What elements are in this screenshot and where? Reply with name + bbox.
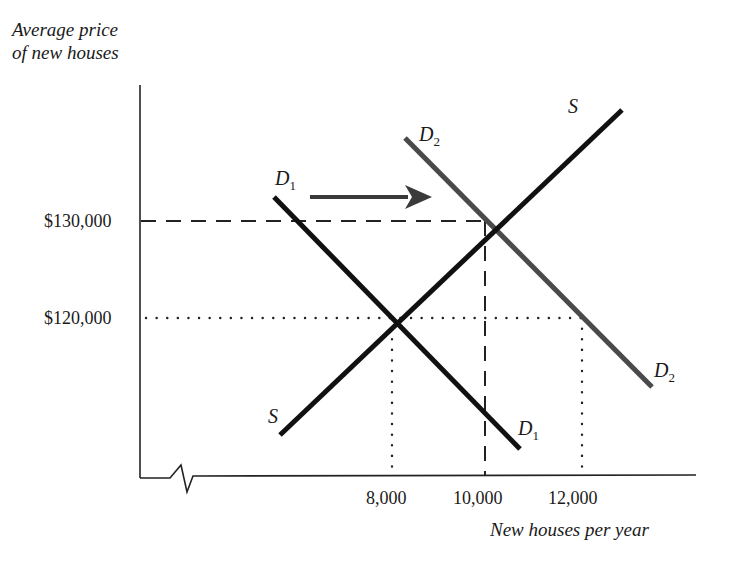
y-tick-120000: $120,000 xyxy=(44,308,112,328)
y-axis-title-line-1: Average price xyxy=(12,20,118,40)
label-d1-bottom: D1 xyxy=(518,418,539,446)
y-tick-130000: $130,000 xyxy=(44,211,112,231)
demand-shift-arrow-icon xyxy=(310,185,432,209)
x-tick-10000: 10,000 xyxy=(453,488,503,508)
y-axis-title-line-2: of new houses xyxy=(12,43,119,63)
chart-canvas xyxy=(0,0,729,564)
guide-lines xyxy=(141,221,582,475)
supply-curve-s xyxy=(280,110,622,435)
x-tick-8000: 8,000 xyxy=(366,488,407,508)
label-d2-bottom: D2 xyxy=(654,360,675,388)
label-d1-top: D1 xyxy=(275,168,296,196)
label-supply-bottom: S xyxy=(268,406,278,426)
demand-curve-d2 xyxy=(405,138,652,387)
label-supply-top: S xyxy=(568,96,578,116)
axes xyxy=(140,85,696,492)
x-tick-12000: 12,000 xyxy=(548,488,598,508)
label-d2-top: D2 xyxy=(419,124,440,152)
x-axis-with-break xyxy=(140,465,696,492)
x-axis-title: New houses per year xyxy=(490,520,649,540)
